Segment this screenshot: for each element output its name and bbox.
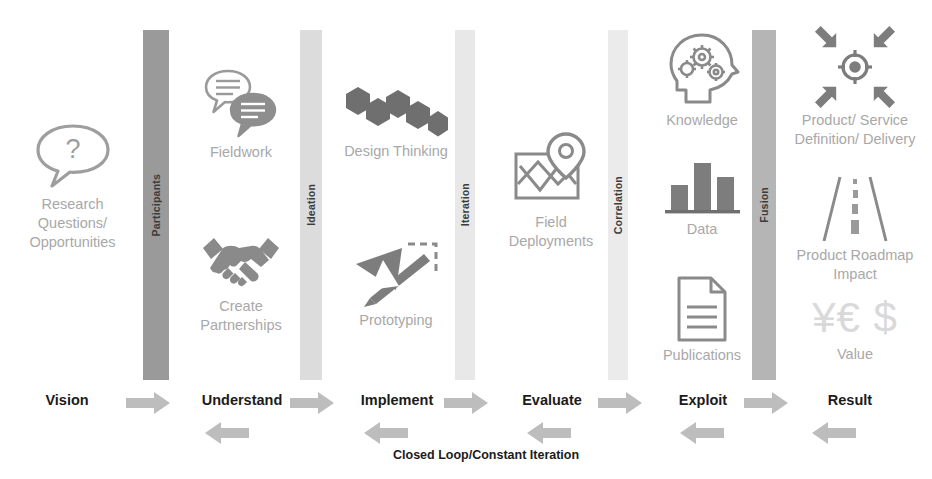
node-caption: Field Deployments	[492, 213, 610, 251]
stage-column-exploit: Knowledge Data	[643, 0, 761, 380]
stage-column-evaluate: Field Deployments	[492, 0, 610, 380]
node-prototyping: Prototyping	[337, 238, 455, 330]
node-caption: Data	[643, 220, 761, 239]
stage-label-result: Result	[792, 392, 908, 408]
node-publications: Publications	[643, 275, 761, 365]
forward-arrow-implement-evaluate	[444, 392, 488, 418]
stage-column-implement: Design Thinking Prototyping	[337, 0, 455, 380]
back-arrow-exploit-evaluate	[680, 422, 724, 448]
gate-bar-participants: Participants	[143, 30, 169, 380]
forward-arrow-exploit-result	[744, 392, 788, 418]
node-product-service-definition: Product/ Service Definition/ Delivery	[790, 26, 920, 149]
back-arrow-understand-vision	[205, 422, 249, 448]
svg-text:?: ?	[65, 134, 80, 164]
stage-column-result: Product/ Service Definition/ Delivery Pr…	[790, 0, 920, 380]
map-pin-icon	[492, 132, 610, 210]
node-value: ¥€ $ Value	[790, 296, 920, 364]
gate-bar-ideation: Ideation	[300, 30, 322, 380]
node-caption: Research Questions/ Opportunities	[10, 195, 135, 252]
node-caption: Knowledge	[643, 111, 761, 130]
node-field-deployments: Field Deployments	[492, 132, 610, 251]
forward-arrow-evaluate-exploit	[598, 392, 642, 418]
stage-label-evaluate: Evaluate	[494, 392, 610, 408]
currency-symbols-icon: ¥€ $	[790, 296, 920, 342]
node-caption: Create Partnerships	[182, 297, 300, 335]
stage-label-understand: Understand	[184, 392, 300, 408]
node-caption: Publications	[643, 346, 761, 365]
gate-bar-label: Correlation	[612, 176, 624, 234]
gate-bar-correlation: Correlation	[608, 30, 628, 380]
bar-chart-icon	[643, 155, 761, 217]
back-arrow-implement-understand	[364, 422, 408, 448]
road-icon	[790, 175, 920, 243]
stage-column-vision: ? Research Questions/ Opportunities	[10, 0, 135, 380]
node-caption: Value	[790, 345, 920, 364]
stage-label-vision: Vision	[12, 392, 122, 408]
node-knowledge: Knowledge	[643, 32, 761, 130]
node-create-partnerships: Create Partnerships	[182, 232, 300, 335]
handshake-icon	[182, 232, 300, 294]
forward-arrow-understand-implement	[290, 392, 334, 418]
gate-bar-label: Ideation	[305, 184, 317, 226]
hexagons-icon	[337, 85, 455, 139]
gate-bar-label: Participants	[150, 174, 162, 237]
node-data: Data	[643, 155, 761, 239]
node-caption: Product Roadmap Impact	[790, 246, 920, 284]
node-caption: Design Thinking	[337, 142, 455, 161]
back-arrow-result-exploit	[812, 422, 856, 448]
stage-column-understand: Fieldwork Create Partners	[182, 0, 300, 380]
gate-bar-label: Iteration	[459, 183, 471, 226]
gate-bar-iteration: Iteration	[455, 30, 475, 380]
node-design-thinking: Design Thinking	[337, 85, 455, 161]
node-caption: Fieldwork	[182, 143, 300, 162]
ruler-pencil-icon	[337, 238, 455, 308]
forward-arrow-vision-understand	[126, 392, 170, 418]
question-speech-bubble-icon: ?	[10, 120, 135, 192]
node-caption: Product/ Service Definition/ Delivery	[790, 111, 920, 149]
node-product-roadmap-impact: Product Roadmap Impact	[790, 175, 920, 284]
svg-text:¥€ $: ¥€ $	[811, 296, 898, 341]
target-converging-arrows-icon	[790, 26, 920, 108]
two-speech-bubbles-icon	[182, 68, 300, 140]
stage-label-implement: Implement	[339, 392, 455, 408]
brain-gears-icon	[643, 32, 761, 108]
node-research-questions: ? Research Questions/ Opportunities	[10, 120, 135, 252]
back-arrow-evaluate-implement	[527, 422, 571, 448]
node-caption: Prototyping	[337, 311, 455, 330]
document-icon	[643, 275, 761, 343]
node-fieldwork: Fieldwork	[182, 68, 300, 162]
closed-loop-label: Closed Loop/Constant Iteration	[393, 448, 579, 462]
process-flow-diagram: Participants Ideation Iteration Correlat…	[0, 0, 932, 479]
